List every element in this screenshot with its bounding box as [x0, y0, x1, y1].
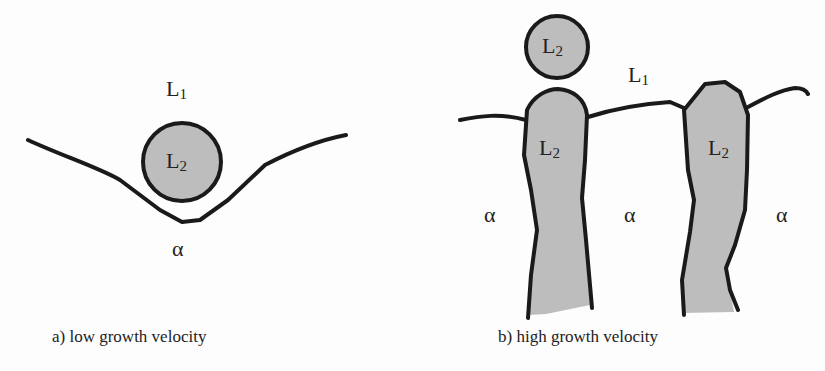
- panel-b: L2 L1 L2 L2 α α α b) high growth velocit…: [460, 16, 808, 346]
- label-l1-b: L1: [628, 62, 649, 88]
- label-alpha-b-mid: α: [624, 202, 636, 227]
- label-alpha-b-left: α: [484, 202, 496, 227]
- caption-a: a) low growth velocity: [52, 327, 207, 346]
- column-l2-2: [681, 82, 748, 313]
- figure-canvas: L1 L2 α a) low growth velocity L2 L1 L2 …: [0, 0, 825, 371]
- panel-a: L1 L2 α a) low growth velocity: [28, 76, 346, 346]
- interface-line-b-left: [460, 116, 526, 120]
- caption-b: b) high growth velocity: [498, 327, 659, 346]
- interface-line-b-right: [748, 88, 808, 107]
- label-l1-a: L1: [166, 76, 187, 102]
- label-alpha-b-right: α: [776, 202, 788, 227]
- diagram-svg: L1 L2 α a) low growth velocity L2 L1 L2 …: [0, 0, 825, 371]
- label-alpha-a: α: [172, 236, 184, 261]
- interface-line-b-mid: [588, 102, 684, 117]
